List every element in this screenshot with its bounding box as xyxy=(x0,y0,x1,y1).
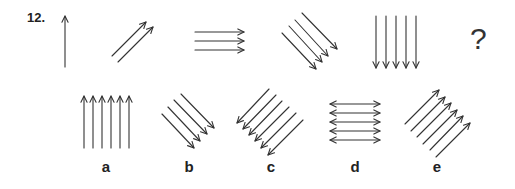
option-e-up-right-arrows-icon[interactable] xyxy=(405,90,470,157)
option-b-label[interactable]: b xyxy=(179,158,199,175)
sequence-figure-4-down-right-arrows-icon xyxy=(282,13,337,69)
sequence-figure-2-up-right-arrows-icon xyxy=(112,22,153,62)
option-c-label[interactable]: c xyxy=(261,158,281,175)
option-b-down-right-arrows-icon[interactable] xyxy=(162,94,214,148)
option-e-label[interactable]: e xyxy=(427,158,447,175)
sequence-figure-5-down-arrows-icon xyxy=(376,16,416,68)
option-a-up-arrows-icon[interactable] xyxy=(84,96,129,148)
option-d-double-headed-arrows-icon[interactable] xyxy=(330,104,380,140)
option-a-label[interactable]: a xyxy=(96,158,116,175)
sequence-figure-3-right-arrows-icon xyxy=(195,32,244,50)
option-d-label[interactable]: d xyxy=(345,158,365,175)
option-c-down-left-arrows-icon[interactable] xyxy=(237,89,303,155)
